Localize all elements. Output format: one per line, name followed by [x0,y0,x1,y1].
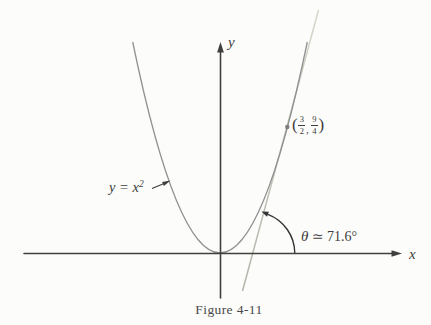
x-axis-label: x [408,246,416,262]
point-label-comma: , [306,124,309,135]
equation-pointer-arrow [152,184,164,189]
equation-label: y = x2 [107,179,144,196]
tangent-point-dot [285,125,289,129]
point-label-y-fraction: 9 4 [311,115,318,137]
angle-arc [268,214,295,253]
figure-canvas: y x y = x2 θ ≃ 71.6° ( 3 2 , 9 4 ) Figur… [0,0,431,325]
x-axis-arrowhead-icon [392,250,403,257]
angle-label: θ ≃ 71.6° [301,228,357,244]
point-label: ( 3 2 , 9 4 ) [292,115,324,137]
point-label-open-paren: ( [292,116,298,133]
y-axis-arrowhead-icon [217,42,224,53]
y-axis-label: y [226,34,235,50]
plot-area: y x y = x2 θ ≃ 71.6° [0,0,431,325]
figure-caption: Figure 4-11 [148,302,310,318]
point-label-close-paren: ) [318,116,324,133]
point-label-x-fraction: 3 2 [298,115,305,137]
